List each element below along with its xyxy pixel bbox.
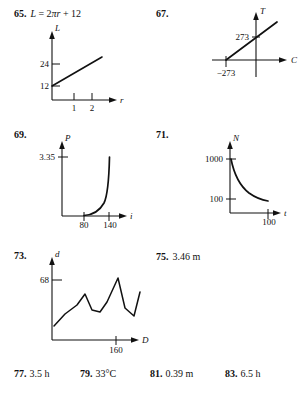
y-axis-arrow	[49, 31, 55, 39]
answer-number-79: 79.	[80, 368, 93, 379]
y-tick-label-1000: 1000	[205, 154, 224, 164]
x-tick-label-2: 2	[90, 103, 95, 113]
y-tick-label-273: 273	[236, 32, 250, 42]
problem-67: 67.	[156, 3, 169, 21]
y-axis-label: d	[55, 249, 60, 259]
x-axis-label: t	[284, 208, 287, 218]
problem-73: 73.	[14, 245, 27, 263]
answer-number-77: 77.	[14, 368, 27, 379]
bottom-answer-row: 77.3.5 h 79.33°C 81.0.39 m 83.6.5 h	[0, 368, 307, 384]
x-axis-arrow	[119, 213, 127, 219]
problem-69-graph: P i 3.35 80 140	[24, 130, 149, 228]
x-tick-label-1: 1	[72, 103, 77, 113]
x-tick-label-140: 140	[103, 220, 117, 230]
problem-67-graph: T C 273 −273	[196, 5, 306, 85]
y-axis-label: L	[54, 23, 60, 33]
problem-73-graph: d D 68 160	[30, 248, 160, 356]
data-polyline	[54, 278, 140, 326]
problem-71-graph: N t 1000 100 100	[186, 130, 304, 228]
x-tick-label-160: 160	[109, 345, 123, 355]
problem-number-65: 65.	[14, 8, 27, 19]
problem-number-73: 73.	[14, 250, 27, 261]
x-axis-arrow	[109, 97, 117, 103]
x-tick-label-80: 80	[80, 220, 90, 230]
y-axis-label: P	[64, 133, 71, 143]
y-axis-label: T	[260, 6, 266, 16]
y-axis-arrow	[253, 12, 259, 20]
problem-65-graph: L r 12 24 1 2	[24, 22, 144, 107]
answer-77: 77.3.5 h	[14, 368, 50, 379]
y-tick-label-12: 12	[40, 81, 49, 91]
answer-value-77: 3.5 h	[30, 368, 50, 379]
x-axis-label: r	[120, 95, 124, 105]
answer-83: 83.6.5 h	[225, 368, 261, 379]
answer-79: 79.33°C	[80, 368, 116, 379]
y-axis-arrow	[59, 141, 65, 149]
y-axis-arrow	[227, 141, 233, 149]
x-tick-label-neg273: −273	[217, 68, 236, 78]
answer-75: 75. 3.46 m	[156, 246, 200, 264]
data-curve	[231, 159, 268, 201]
x-axis-arrow	[131, 337, 139, 343]
problem-65: 65. L = 2πr + 12	[14, 3, 81, 21]
problem-number-67: 67.	[156, 8, 169, 19]
y-tick-label-68: 68	[40, 275, 50, 285]
answer-number-83: 83.	[225, 368, 238, 379]
answer-value-75: 3.46 m	[173, 251, 201, 262]
data-curve	[84, 157, 110, 216]
data-line	[52, 57, 102, 86]
data-line	[226, 22, 277, 60]
answer-value-79: 33°C	[96, 368, 117, 379]
answer-81: 81.0.39 m	[150, 368, 193, 379]
answer-number-75: 75.	[156, 251, 169, 262]
x-axis-label: i	[130, 211, 133, 221]
y-axis-arrow	[49, 257, 55, 265]
x-axis-label: D	[141, 335, 149, 345]
problem-65-equation: L = 2πr + 12	[31, 8, 82, 19]
y-axis-label: N	[232, 133, 240, 143]
answer-value-81: 0.39 m	[166, 368, 194, 379]
answer-key-page: 65. L = 2πr + 12 L r 12 24	[0, 0, 307, 398]
problem-number-71: 71.	[156, 129, 169, 140]
x-axis-arrow	[273, 210, 281, 216]
problem-71: 71.	[156, 124, 169, 142]
x-axis-arrow	[279, 57, 287, 63]
y-tick-label-335: 3.35	[39, 152, 55, 162]
answer-value-83: 6.5 h	[241, 368, 261, 379]
x-tick-label-100: 100	[262, 217, 276, 227]
y-tick-label-24: 24	[40, 59, 50, 69]
x-axis-label: C	[291, 55, 298, 65]
y-tick-label-100: 100	[210, 194, 224, 204]
answer-number-81: 81.	[150, 368, 163, 379]
